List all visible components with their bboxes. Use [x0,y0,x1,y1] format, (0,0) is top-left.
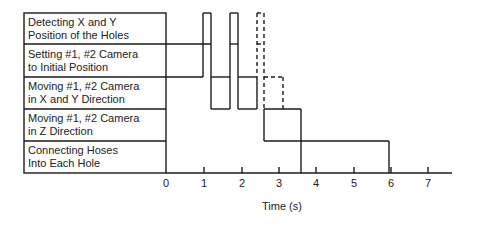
label-line: Into Each Hole [28,157,164,170]
x-axis-title: Time (s) [262,200,302,212]
dashed-sequence [257,13,283,109]
tick-label-7: 7 [418,177,438,189]
row-label-moving-z: Moving #1, #2 Camera in Z Direction [28,112,164,138]
label-line: Connecting Hoses [28,144,164,157]
label-line: in Z Direction [28,125,164,138]
solid-sequence [166,13,389,173]
tick-label-5: 5 [344,177,364,189]
row-label-detecting: Detecting X and Y Position of the Holes [28,16,164,42]
label-line: Moving #1, #2 Camera [28,112,164,125]
tick-label-0: 0 [156,177,176,189]
label-line: in X and Y Direction [28,93,164,106]
tick-label-2: 2 [232,177,252,189]
label-line: Moving #1, #2 Camera [28,80,164,93]
row-label-moving-xy: Moving #1, #2 Camera in X and Y Directio… [28,80,164,106]
tick-label-6: 6 [381,177,401,189]
row-label-connecting: Connecting Hoses Into Each Hole [28,144,164,170]
row-label-setting: Setting #1, #2 Camera to Initial Positio… [28,48,164,74]
label-line: Position of the Holes [28,29,164,42]
tick-label-1: 1 [194,177,214,189]
tick-label-3: 3 [269,177,289,189]
label-line: Detecting X and Y [28,16,164,29]
label-line: to Initial Position [28,61,164,74]
label-line: Setting #1, #2 Camera [28,48,164,61]
tick-label-4: 4 [306,177,326,189]
axis-ticks [204,167,428,173]
